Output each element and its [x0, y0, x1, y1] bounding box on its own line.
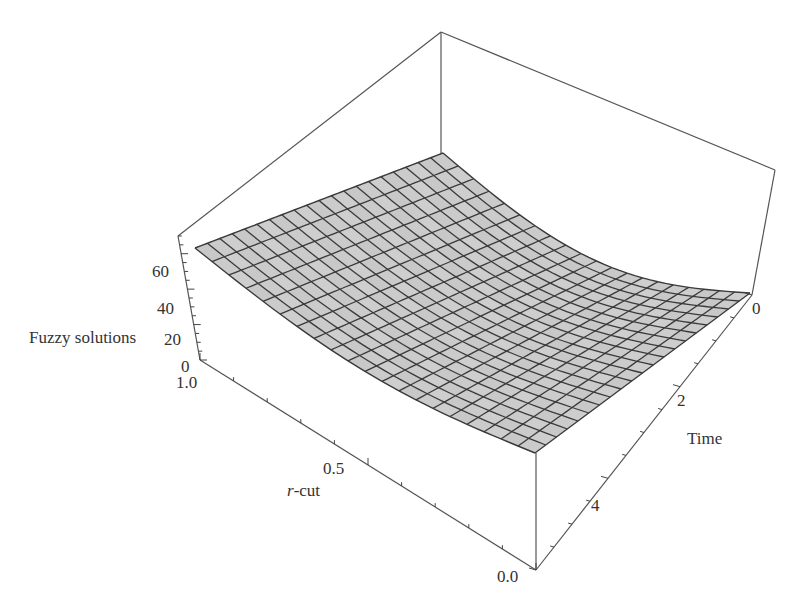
r-axis-title-italic: r	[287, 481, 294, 500]
t-axis-title: Time	[687, 430, 722, 447]
t-tick-4: 4	[591, 497, 600, 514]
z-axis-title: Fuzzy solutions	[29, 329, 136, 346]
r-tick-0.5: 0.5	[323, 460, 344, 477]
r-axis-title-rest: -cut	[294, 481, 320, 500]
r-axis-title: r-cut	[287, 482, 320, 499]
surface-plot	[0, 0, 799, 607]
r-tick-0.0: 0.0	[497, 568, 518, 585]
r-tick-1.0: 1.0	[176, 374, 197, 391]
z-tick-40: 40	[157, 300, 174, 317]
z-tick-60: 60	[152, 263, 169, 280]
fuzzy-surface	[195, 153, 750, 453]
t-tick-2: 2	[677, 392, 686, 409]
t-tick-0: 0	[752, 300, 761, 317]
z-tick-20: 20	[164, 331, 181, 348]
